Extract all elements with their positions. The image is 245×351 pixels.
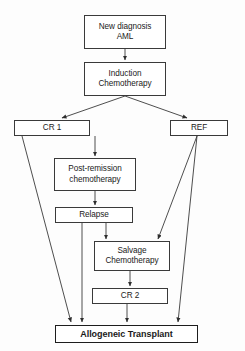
- node-label-line: Chemotherapy: [105, 256, 158, 267]
- node-relapse[interactable]: Relapse: [55, 207, 133, 223]
- node-allogeneic-transplant[interactable]: Allogeneic Transplant: [55, 325, 198, 343]
- node-cr-1[interactable]: CR 1: [14, 120, 90, 136]
- node-label-line: Chemotherapy: [98, 79, 151, 90]
- node-new-diagnosis-aml[interactable]: New diagnosis AML: [84, 15, 166, 49]
- node-label-line: Induction: [109, 69, 142, 80]
- node-label-line: CR 1: [43, 123, 61, 134]
- node-label-line: Relapse: [79, 210, 109, 221]
- node-label-line: AML: [117, 32, 134, 43]
- node-label-line: New diagnosis: [99, 22, 152, 33]
- node-label-line: CR 2: [121, 291, 139, 302]
- node-cr-2[interactable]: CR 2: [92, 288, 168, 304]
- node-ref[interactable]: REF: [170, 120, 228, 136]
- node-label-line: Allogeneic Transplant: [80, 329, 172, 340]
- node-label-line: REF: [191, 123, 207, 134]
- edge-ref-to-allogeneic: [178, 136, 197, 322]
- flowchart-diagram: New diagnosis AML Induction Chemotherapy…: [0, 0, 245, 351]
- edge-ref-to-salvage: [158, 136, 197, 239]
- edge-induction-to-cr1: [62, 96, 125, 118]
- node-label-line: chemotherapy: [69, 175, 120, 186]
- node-label-line: Post-remission: [68, 164, 121, 175]
- edge-induction-to-ref: [125, 96, 187, 118]
- node-label-line: Salvage: [117, 246, 146, 257]
- node-salvage-chemotherapy[interactable]: Salvage Chemotherapy: [94, 241, 170, 271]
- node-post-remission-chemotherapy[interactable]: Post-remission chemotherapy: [54, 158, 136, 191]
- node-induction-chemotherapy[interactable]: Induction Chemotherapy: [84, 62, 166, 96]
